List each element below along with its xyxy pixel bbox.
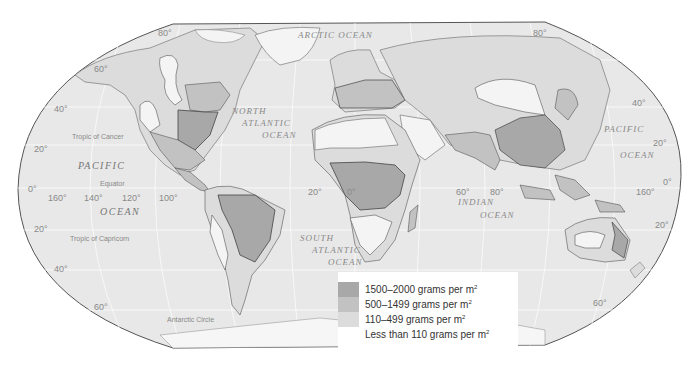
- lon-0: 0°: [347, 187, 356, 197]
- north-atlantic-label-1: NORTH: [232, 106, 267, 116]
- lat-40-west: 40°: [54, 104, 68, 114]
- legend-label: 500–1499 grams per m2: [365, 299, 472, 310]
- arctic-ocean-word: OCEAN: [338, 30, 373, 40]
- north-atlantic-label-3: OCEAN: [262, 130, 297, 140]
- lat-0-west: 0°: [28, 184, 37, 194]
- lat-s60-west: 60°: [94, 302, 108, 312]
- lat-80-east: 80°: [533, 28, 547, 38]
- indian-ocean-label-2: OCEAN: [480, 210, 515, 220]
- lat-40-east: 40°: [632, 98, 646, 108]
- indian-ocean-label-1: INDIAN: [458, 197, 494, 207]
- legend-label-text: 1500–2000 grams per m: [365, 284, 474, 295]
- lat-s20-west: 20°: [34, 224, 48, 234]
- tropic-of-cancer-label: Tropic of Cancer: [72, 133, 123, 140]
- legend-swatch: [338, 327, 359, 342]
- lon-120w: 120°: [122, 193, 141, 203]
- legend-label-sup: 2: [486, 329, 489, 335]
- south-atlantic-label-1: SOUTH: [300, 233, 334, 243]
- legend-label-sup: 2: [462, 314, 465, 320]
- lat-60-west: 60°: [94, 64, 108, 74]
- pacific-east-label: PACIFIC: [604, 124, 644, 134]
- legend-label-sup: 2: [468, 299, 471, 305]
- lat-0-east: 0°: [663, 177, 672, 187]
- legend-item-500-1499: 500–1499 grams per m2: [338, 297, 472, 312]
- north-atlantic-label-2: ATLANTIC: [242, 118, 291, 128]
- lon-160e: 160°: [636, 187, 655, 197]
- lon-100w: 100°: [159, 193, 178, 203]
- lat-s60-east: 60°: [593, 298, 607, 308]
- lon-80e: 80°: [490, 187, 504, 197]
- legend-label: 1500–2000 grams per m2: [365, 284, 477, 295]
- legend-swatch: [338, 282, 359, 297]
- lon-20w: 20°: [308, 187, 322, 197]
- lat-s40-west: 40°: [54, 264, 68, 274]
- legend-label-text: Less than 110 grams per m: [365, 329, 486, 340]
- tropic-of-capricorn-label: Tropic of Capricorn: [70, 235, 129, 242]
- legend-label-text: 500–1499 grams per m: [365, 299, 468, 310]
- lat-20-east: 20°: [653, 138, 667, 148]
- lon-140w: 140°: [84, 193, 103, 203]
- lat-s20-east: 20°: [655, 220, 669, 230]
- pacific-west-label: PACIFIC: [78, 160, 126, 171]
- arctic-ocean-label: ARCTIC OCEAN: [298, 30, 373, 40]
- legend-item-1500-2000: 1500–2000 grams per m2: [338, 282, 477, 297]
- legend-label-text: 110–499 grams per m: [365, 314, 462, 325]
- equator-label: Equator: [100, 180, 125, 187]
- pacific-east-ocean-label: OCEAN: [620, 150, 655, 160]
- legend-swatch: [338, 312, 359, 327]
- antarctic-circle-label: Antarctic Circle: [167, 316, 214, 323]
- lat-80-west: 80°: [158, 28, 172, 38]
- lon-160w: 160°: [48, 193, 67, 203]
- lat-20-west: 20°: [34, 144, 48, 154]
- legend-label: 110–499 grams per m2: [365, 314, 465, 325]
- pacific-west-ocean-label: OCEAN: [100, 206, 140, 217]
- legend: 1500–2000 grams per m2 500–1499 grams pe…: [338, 272, 518, 354]
- legend-swatch: [338, 297, 359, 312]
- arctic-word: ARCTIC: [298, 30, 335, 40]
- south-atlantic-label-3: OCEAN: [328, 257, 363, 267]
- south-atlantic-label-2: ATLANTIC: [312, 245, 361, 255]
- legend-item-less-110: Less than 110 grams per m2: [338, 327, 489, 342]
- legend-item-110-499: 110–499 grams per m2: [338, 312, 465, 327]
- legend-label-sup: 2: [474, 284, 477, 290]
- lon-60e: 60°: [456, 187, 470, 197]
- legend-label: Less than 110 grams per m2: [365, 329, 489, 340]
